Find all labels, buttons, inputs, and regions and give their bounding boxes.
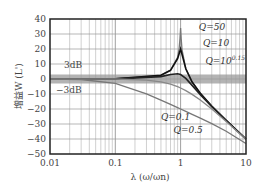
y-axis-label: 增益W (L') [13,63,24,109]
y-tick-labels: 403020100−10−20−30−40−50 [27,14,46,159]
y-tick: 0 [40,74,46,84]
y-tick: 10 [35,59,47,69]
x-axis-label: λ (ω/ωn) [130,172,169,182]
x-tick: 10 [240,158,252,168]
curve-label: Q=0.1 [161,112,190,122]
y-tick: −10 [27,89,46,99]
y-tick: 40 [35,14,47,24]
band-lower-label: −3dB [56,85,82,95]
y-tick: 30 [35,29,47,39]
curve-label: Q=0.5 [174,125,204,135]
x-tick-labels: 0.010.1110 [40,158,252,168]
x-tick: 0.1 [108,158,122,168]
x-tick: 1 [178,158,184,168]
band-upper-label: 3dB [64,60,82,70]
y-tick: 20 [35,44,47,54]
curve-label: Q=50 [199,22,226,32]
bode-gain-chart: 403020100−10−20−30−40−50 0.010.1110 3dB … [0,0,261,192]
curve-label: Q=10 [203,38,230,48]
x-tick: 0.01 [40,158,60,168]
y-tick: −40 [27,134,46,144]
y-tick: −20 [27,104,46,114]
y-tick: −30 [27,119,46,129]
